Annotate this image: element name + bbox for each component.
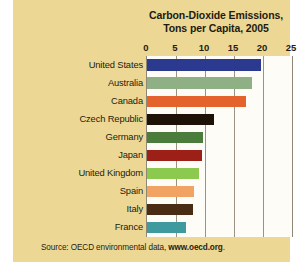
chart-figure: Carbon-Dioxide Emissions, Tons per Capit… [0, 0, 302, 275]
chart-row: Germany [147, 128, 292, 146]
bar-united-states [147, 59, 261, 70]
chart-title-line-2: Tons per Capita, 2005 [131, 22, 301, 35]
category-label-france: France [115, 221, 143, 232]
x-tick-label-5: 5 [163, 42, 187, 53]
chart-row: United States [147, 56, 292, 74]
bar-france [147, 222, 186, 233]
chart-row: Canada [147, 92, 292, 110]
chart-row: Japan [147, 147, 292, 165]
category-label-czech-republic: Czech Republic [79, 113, 143, 124]
category-label-germany: Germany [105, 131, 143, 142]
bar-canada [147, 96, 246, 107]
bar-united-kingdom [147, 168, 199, 179]
chart-row: Italy [147, 201, 292, 219]
x-tick-label-25: 25 [279, 42, 302, 53]
x-axis-tick-labels: 0510152025 [146, 42, 291, 55]
category-label-spain: Spain [120, 185, 143, 196]
category-label-united-states: United States [89, 59, 143, 70]
bar-germany [147, 132, 203, 143]
category-label-united-kingdom: United Kingdom [78, 167, 143, 178]
category-label-australia: Australia [108, 77, 143, 88]
chart-title-line-1: Carbon-Dioxide Emissions, [131, 9, 301, 22]
bar-czech-republic [147, 114, 214, 125]
chart-row: Czech Republic [147, 110, 292, 128]
x-tick-label-20: 20 [250, 42, 274, 53]
bar-italy [147, 204, 193, 215]
bar-spain [147, 186, 194, 197]
source-prefix: Source: OECD environmental data, [41, 243, 168, 252]
source-note: Source: OECD environmental data, www.oec… [41, 243, 225, 252]
chart-row: Australia [147, 74, 292, 92]
plot-area: United StatesAustraliaCanadaCzech Republ… [146, 56, 293, 237]
poster-panel: Carbon-Dioxide Emissions, Tons per Capit… [13, 0, 290, 262]
category-label-italy: Italy [127, 203, 143, 214]
source-url-link[interactable]: www.oecd.org [168, 243, 222, 252]
x-tick-label-0: 0 [134, 42, 158, 53]
chart-row: Spain [147, 183, 292, 201]
category-label-japan: Japan [118, 149, 143, 160]
chart-row: United Kingdom [147, 165, 292, 183]
x-tick-label-10: 10 [192, 42, 216, 53]
bar-japan [147, 150, 202, 161]
chart-title: Carbon-Dioxide Emissions, Tons per Capit… [131, 9, 301, 35]
source-suffix: . [223, 243, 225, 252]
bar-australia [147, 77, 252, 88]
chart-row: France [147, 219, 292, 237]
category-label-canada: Canada [111, 95, 143, 106]
x-tick-label-15: 15 [221, 42, 245, 53]
